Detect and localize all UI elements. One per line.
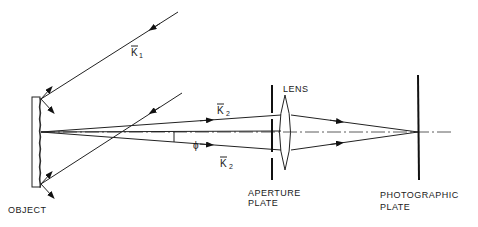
incident-ray-lower xyxy=(41,93,182,196)
svg-text:2: 2 xyxy=(226,110,230,117)
diffracted-rays xyxy=(41,115,281,150)
svg-text:K: K xyxy=(220,158,227,169)
object-label: OBJECT xyxy=(8,205,47,215)
k1-vector-label: K 1 xyxy=(131,46,143,59)
svg-text:K: K xyxy=(217,105,224,116)
aperture-label-line1: APERTURE xyxy=(248,188,301,198)
lens xyxy=(280,95,291,170)
k2-upper-vector-label: K 2 xyxy=(217,104,230,117)
converging-rays xyxy=(291,115,418,150)
svg-text:2: 2 xyxy=(229,163,233,170)
optical-diagram: OBJECT LENS APERTURE PLATE PHOTOGRAPHIC … xyxy=(0,0,478,227)
svg-text:K: K xyxy=(131,47,138,58)
aperture-label-line2: PLATE xyxy=(248,198,278,208)
k2-lower-vector-label: K 2 xyxy=(220,157,233,170)
svg-text:1: 1 xyxy=(139,52,143,59)
photographic-plate xyxy=(418,75,419,180)
incident-ray-k1 xyxy=(41,12,178,111)
object-plate xyxy=(32,97,41,188)
photographic-label-line2: PLATE xyxy=(380,202,410,212)
phi-angle-label: ϕ xyxy=(193,140,199,151)
lens-label: LENS xyxy=(283,84,309,94)
photographic-label-line1: PHOTOGRAPHIC xyxy=(380,190,459,200)
